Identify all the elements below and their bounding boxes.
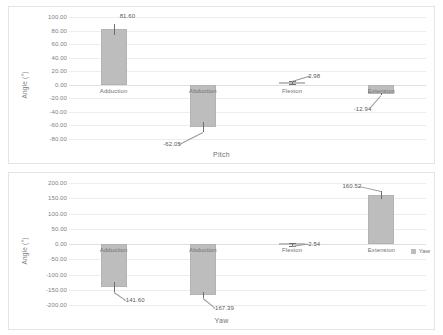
chart-yaw: Angle (°) 200.00150.00100.0050.000.00-50… — [8, 172, 435, 330]
gridline — [69, 112, 426, 113]
y-tick-label: 0.00 — [55, 241, 67, 247]
y-tick-label: -50.00 — [49, 256, 67, 262]
y-tick-label: 50.00 — [51, 226, 67, 232]
category-label-extension: Extension — [368, 247, 395, 253]
chart-pitch-plot-area: Adduction81.60Abduction-62.05Flexion2.98… — [69, 17, 426, 139]
error-bar-abduction — [203, 122, 204, 131]
category-label-abduction: Abduction — [189, 88, 217, 94]
error-cap — [289, 243, 296, 244]
leader-line — [369, 95, 382, 110]
value-label-abduction: -167.39 — [213, 305, 234, 311]
category-label-adduction: Adduction — [100, 247, 128, 253]
gridline — [69, 290, 426, 291]
chart-yaw-x-axis-title: Yaw — [9, 317, 434, 324]
legend-swatch-yaw — [411, 249, 416, 254]
y-tick-label: 80.00 — [51, 28, 67, 34]
chart-pitch: Angle (°) 100.0080.0060.0040.0020.000.00… — [8, 6, 435, 164]
leader-line — [203, 299, 216, 309]
category-label-flexion: Flexion — [282, 88, 302, 94]
leader-line — [359, 186, 381, 192]
value-label-adduction: 81.60 — [120, 13, 136, 19]
y-tick-label: 60.00 — [51, 41, 67, 47]
y-tick-label: 150.00 — [48, 195, 67, 201]
chart-yaw-legend: Yaw — [411, 248, 430, 254]
error-bar-adduction — [114, 24, 115, 34]
gridline — [69, 98, 426, 99]
category-label-flexion: Flexion — [282, 247, 302, 253]
gridline — [69, 139, 426, 140]
y-tick-label: -40.00 — [49, 109, 67, 115]
bar-adduction[interactable] — [101, 29, 127, 84]
category-label-adduction: Adduction — [100, 88, 128, 94]
y-tick-label: -200.00 — [46, 302, 67, 308]
chart-pitch-x-axis-title: Pitch — [9, 151, 434, 158]
category-label-extension: Extension — [368, 88, 395, 94]
bar-extension[interactable] — [368, 195, 394, 244]
value-label-adduction: -141.60 — [124, 297, 145, 303]
chart-pitch-plot-wrap: Angle (°) 100.0080.0060.0040.0020.000.00… — [9, 7, 434, 163]
y-tick-label: 100.00 — [48, 14, 67, 20]
chart-pitch-y-tick-labels: 100.0080.0060.0040.0020.000.00-20.00-40.… — [23, 17, 67, 139]
figure-canvas: Angle (°) 100.0080.0060.0040.0020.000.00… — [0, 0, 443, 335]
y-tick-label: 100.00 — [48, 211, 67, 217]
gridline — [69, 305, 426, 306]
chart-yaw-plot-area: Adduction-141.60Abduction-167.39Flexion-… — [69, 183, 426, 305]
chart-yaw-y-tick-labels: 200.00150.00100.0050.000.00-50.00-100.00… — [23, 183, 67, 305]
error-bar-adduction — [114, 282, 115, 292]
category-label-abduction: Abduction — [189, 247, 217, 253]
legend-label-yaw: Yaw — [419, 248, 430, 254]
gridline — [69, 183, 426, 184]
gridline — [69, 125, 426, 126]
y-tick-label: 20.00 — [51, 68, 67, 74]
y-tick-label: 40.00 — [51, 55, 67, 61]
y-tick-label: -80.00 — [49, 136, 67, 142]
y-tick-label: 200.00 — [48, 180, 67, 186]
value-label-flexion: -2.54 — [306, 241, 320, 247]
chart-yaw-plot-wrap: Angle (°) 200.00150.00100.0050.000.00-50… — [9, 173, 434, 329]
y-tick-label: -60.00 — [49, 122, 67, 128]
y-tick-label: -150.00 — [46, 287, 67, 293]
error-bar-extension — [381, 191, 382, 199]
y-tick-label: -100.00 — [46, 272, 67, 278]
y-tick-label: 0.00 — [55, 82, 67, 88]
error-cap — [289, 84, 296, 85]
y-tick-label: -20.00 — [49, 95, 67, 101]
